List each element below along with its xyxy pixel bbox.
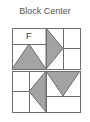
upper-half: F [12,28,80,69]
block-diagram-svg: F [11,27,81,113]
orientation-letter: F [26,30,32,41]
lower-half [12,71,80,112]
page-title: Block Center [0,6,90,17]
quilt-block-diagram: F [11,27,81,113]
block-center-panel: Block Center [0,0,90,122]
